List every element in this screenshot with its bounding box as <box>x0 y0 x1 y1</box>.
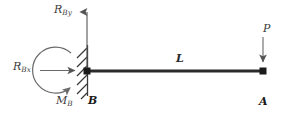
label-support-point-b: B <box>88 95 97 106</box>
label-reaction-moment: MB <box>56 95 73 106</box>
label-reaction-moment-base: M <box>56 94 67 107</box>
label-reaction-horizontal: RBx <box>13 61 31 72</box>
label-reaction-vertical: RBy <box>54 4 72 15</box>
node-marker-b <box>84 68 91 75</box>
label-free-point-a: A <box>259 96 268 107</box>
label-reaction-horizontal-subscript: Bx <box>21 65 31 74</box>
diagram-canvas <box>0 0 293 122</box>
label-applied-load: P <box>263 23 270 34</box>
node-marker-a <box>260 68 267 75</box>
label-reaction-vertical-subscript: By <box>62 8 72 17</box>
label-beam-length: L <box>176 53 184 64</box>
label-reaction-moment-subscript: B <box>67 99 73 108</box>
free-body-diagram: RBy RBx MB B L P A <box>0 0 293 122</box>
